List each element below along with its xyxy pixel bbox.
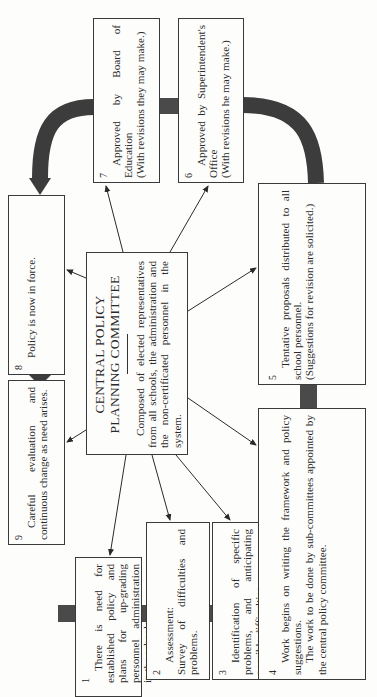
step-text: Approved by Superintendent's Office bbox=[195, 25, 219, 178]
flow-bar-4-5 bbox=[300, 384, 317, 409]
step-box-4: 4 Work begins on writing the framework a… bbox=[258, 408, 366, 680]
step-text-2: (With revisions he may make.) bbox=[219, 25, 231, 178]
step-number: 6 bbox=[183, 25, 194, 178]
flow-bar-start bbox=[58, 605, 76, 622]
arrow-to-8 bbox=[67, 270, 86, 278]
title-divider bbox=[127, 335, 128, 375]
arrow-to-2 bbox=[152, 455, 170, 520]
arrow-to-6 bbox=[170, 186, 208, 252]
flow-arc-5-6 bbox=[243, 105, 316, 183]
committee-title-line1: CENTRAL POLICY bbox=[92, 261, 107, 448]
step-number: 9 bbox=[13, 387, 24, 540]
step-box-9: 9 Careful evaluation and continuous chan… bbox=[8, 380, 65, 545]
step-box-2: 2 Assessment: Survey of difficulties and… bbox=[146, 522, 210, 680]
step-text: There is need for established policy and… bbox=[92, 564, 153, 683]
step-box-8: 8 Policy is now in force. bbox=[8, 195, 65, 375]
step-number: 2 bbox=[151, 529, 162, 675]
arrow-to-3 bbox=[176, 455, 230, 520]
step-box-5: 5 Tentative proposals distributed to all… bbox=[258, 183, 366, 385]
step-box-7: 7 Approved by Board of Education (With r… bbox=[93, 18, 160, 183]
central-committee-box: CENTRAL POLICY PLANNING COMMITTEE Compos… bbox=[86, 252, 188, 455]
flow-arrowhead-8 bbox=[29, 178, 51, 195]
arrow-to-7 bbox=[106, 186, 123, 252]
step-text: Survey of difficulties and problems. bbox=[175, 529, 199, 675]
flow-arc-7-8 bbox=[40, 107, 94, 178]
step-title: Assessment: bbox=[163, 529, 175, 675]
step-number: 8 bbox=[13, 202, 24, 370]
flow-bar-6-7 bbox=[159, 98, 179, 114]
step-number: 3 bbox=[217, 529, 228, 675]
step-text: Careful evaluation and continuous change… bbox=[25, 387, 49, 540]
arrow-to-4 bbox=[188, 398, 256, 445]
committee-title-line2: PLANNING COMMITTEE bbox=[107, 261, 122, 448]
step-number: 1 bbox=[80, 564, 91, 683]
arrow-to-9 bbox=[67, 430, 86, 442]
step-text: Work begins on writing the framework and… bbox=[279, 415, 303, 675]
step-number: 5 bbox=[267, 190, 278, 380]
committee-description: Composed of elected representatives from… bbox=[134, 261, 183, 448]
step-text: Tentative proposals distributed to all s… bbox=[279, 190, 303, 380]
step-text-2: (With revisions they may make.) bbox=[134, 25, 146, 178]
step-text-2: The work to be done by sub-committees ap… bbox=[303, 415, 327, 675]
arrow-to-1 bbox=[110, 455, 126, 555]
step-box-1: 1 There is need for established policy a… bbox=[75, 557, 142, 697]
step-box-6: 6 Approved by Superintendent's Office (W… bbox=[178, 18, 244, 183]
step-text: Policy is now in force. bbox=[25, 202, 37, 370]
step-text-2: (Suggestions for revision are solicited.… bbox=[303, 190, 315, 380]
step-text: Approved by Board of Education bbox=[110, 25, 134, 178]
step-number: 7 bbox=[98, 25, 109, 178]
arrow-to-5 bbox=[188, 268, 256, 311]
step-number: 4 bbox=[267, 415, 278, 675]
